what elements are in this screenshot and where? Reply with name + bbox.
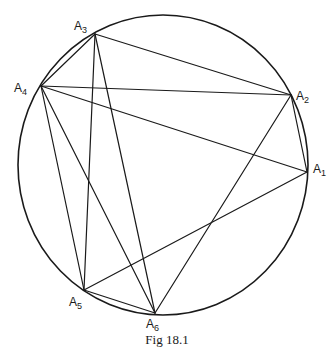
circle-chord-diagram	[0, 0, 334, 353]
chords-group	[41, 34, 307, 313]
chord-a3-a5	[84, 34, 95, 290]
chord-a1-a5	[84, 172, 307, 290]
chord-a2-a6	[155, 95, 291, 313]
chord-a3-a2	[95, 34, 291, 95]
chord-a4-a6	[41, 86, 155, 313]
chord-a4-a2	[41, 86, 291, 95]
vertex-label-a3: A3	[74, 20, 87, 35]
chord-a3-a6	[95, 34, 155, 313]
chord-a3-a4	[41, 34, 95, 86]
chord-a5-a6	[84, 290, 155, 313]
figure-caption: Fig 18.1	[0, 332, 334, 348]
vertex-label-a1: A1	[313, 163, 326, 178]
vertex-label-a5: A5	[69, 296, 82, 311]
chord-a4-a1	[41, 86, 307, 172]
circumscribed-circle	[18, 15, 308, 315]
vertex-label-a6: A6	[146, 318, 159, 333]
vertex-label-a2: A2	[296, 90, 309, 105]
vertex-label-a4: A4	[14, 82, 27, 97]
chord-a4-a5	[41, 86, 84, 290]
